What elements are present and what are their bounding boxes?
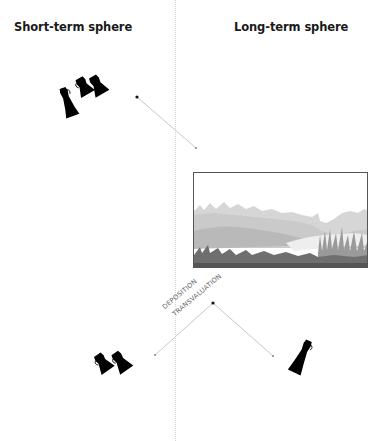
vessel-group-top-icon xyxy=(56,72,109,118)
connector-deposit-top xyxy=(135,95,197,149)
landscape-deposit-image xyxy=(193,172,368,268)
vessel-long-term-icon xyxy=(288,338,315,376)
vessel-group-bottom-icon xyxy=(91,348,134,375)
grassland-landscape xyxy=(194,173,368,268)
